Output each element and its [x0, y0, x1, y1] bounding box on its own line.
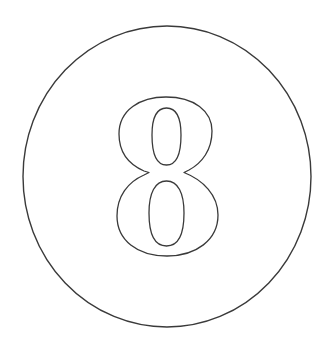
number-badge: 8	[0, 0, 335, 351]
upper-counter	[152, 108, 181, 165]
digit-eight-icon	[117, 97, 218, 256]
badge-graphic	[0, 0, 335, 351]
circle-outline	[23, 26, 311, 327]
lower-counter	[149, 181, 184, 246]
